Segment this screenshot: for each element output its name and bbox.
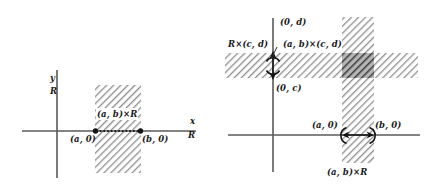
right-top-point-label: (0, d) bbox=[280, 18, 306, 27]
left-point-b bbox=[138, 128, 143, 133]
right-intersection-region bbox=[342, 53, 374, 78]
right-vertical-strip-label: (a, b)×R bbox=[327, 168, 367, 177]
product-topology-figure: y R x R (a, b)×R (a, 0) (b, 0) R×(c, d) … bbox=[0, 0, 435, 190]
left-vertical-strip bbox=[95, 85, 141, 173]
left-y-axis-label: y bbox=[50, 74, 55, 83]
left-panel-group bbox=[22, 70, 196, 178]
right-intersection-label: (a, b)×(c, d) bbox=[283, 40, 342, 49]
right-horizontal-strip-label: R×(c, d) bbox=[228, 40, 268, 49]
left-point-b-label: (b, 0) bbox=[142, 135, 168, 144]
right-vertical-strip bbox=[342, 17, 374, 163]
left-x-axis-set-label: R bbox=[188, 131, 195, 140]
left-region-label: (a, b)×R bbox=[96, 108, 138, 120]
right-bottom-point-label: (0, c) bbox=[276, 84, 302, 93]
right-point-b-label: (b, 0) bbox=[375, 121, 401, 130]
left-point-a bbox=[93, 128, 98, 133]
left-y-axis-set-label: R bbox=[50, 87, 57, 96]
left-point-a-label: (a, 0) bbox=[70, 135, 96, 144]
right-horizontal-strip bbox=[225, 53, 418, 78]
left-x-axis-label: x bbox=[190, 117, 195, 126]
figure-canvas bbox=[0, 0, 435, 190]
right-point-a-label: (a, 0) bbox=[312, 121, 338, 130]
